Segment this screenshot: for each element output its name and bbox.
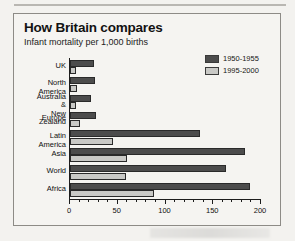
x-tick-major	[69, 199, 70, 204]
x-axis-line: 050100150200	[69, 199, 260, 200]
x-tick-minor	[145, 199, 146, 202]
x-tick-minor	[88, 199, 89, 202]
category-label: Asia	[51, 150, 66, 159]
x-tick-minor	[184, 199, 185, 202]
x-tick-minor	[136, 199, 137, 202]
bar-1995-2000[interactable]	[70, 85, 77, 92]
bar-1995-2000[interactable]	[70, 120, 80, 127]
x-tick-minor	[126, 199, 127, 202]
bar-group: UK	[70, 58, 261, 76]
x-tick-minor	[231, 199, 232, 202]
scan-artifact	[150, 228, 270, 238]
x-tick-minor	[107, 199, 108, 202]
bar-1950-1955[interactable]	[70, 183, 250, 190]
bar-group: Australia & New Zealand	[70, 93, 261, 111]
bar-1950-1955[interactable]	[70, 148, 245, 155]
x-tick-label: 50	[113, 206, 121, 215]
category-label: UK	[56, 62, 66, 71]
bar-group: North America	[70, 76, 261, 94]
bar-group: World	[70, 164, 261, 182]
page-title: How Britain compares	[24, 20, 163, 35]
bar-group: Europe	[70, 111, 261, 129]
bar-group: Africa	[70, 181, 261, 199]
category-label: Africa	[47, 185, 66, 194]
bar-1950-1955[interactable]	[70, 60, 94, 67]
bar-1950-1955[interactable]	[70, 130, 200, 137]
bar-1950-1955[interactable]	[70, 112, 96, 119]
x-tick-label: 200	[254, 206, 267, 215]
bar-group: Latin America	[70, 129, 261, 147]
x-tick-minor	[241, 199, 242, 202]
x-tick-major	[165, 199, 166, 204]
x-tick-minor	[155, 199, 156, 202]
bar-1995-2000[interactable]	[70, 173, 126, 180]
bar-1995-2000[interactable]	[70, 155, 127, 162]
bar-1995-2000[interactable]	[70, 138, 113, 145]
x-tick-minor	[174, 199, 175, 202]
bar-group: Asia	[70, 146, 261, 164]
chart-subtitle: Infant mortality per 1,000 births	[24, 37, 148, 47]
x-tick-minor	[203, 199, 204, 202]
top-divider-rule	[14, 4, 286, 6]
chart-plot-area: UKNorth AmericaAustralia & New ZealandEu…	[69, 58, 260, 199]
bar-1995-2000[interactable]	[70, 102, 76, 109]
x-tick-minor	[222, 199, 223, 202]
x-tick-label: 0	[67, 206, 71, 215]
bar-1950-1955[interactable]	[70, 77, 95, 84]
x-tick-minor	[193, 199, 194, 202]
category-label: Europe	[42, 114, 66, 123]
category-label: World	[47, 167, 66, 176]
bar-1995-2000[interactable]	[70, 67, 76, 74]
bar-1995-2000[interactable]	[70, 190, 154, 197]
x-tick-minor	[79, 199, 80, 202]
x-tick-minor	[250, 199, 251, 202]
x-tick-label: 150	[206, 206, 219, 215]
x-tick-major	[212, 199, 213, 204]
x-tick-major	[117, 199, 118, 204]
bar-1950-1955[interactable]	[70, 165, 226, 172]
x-tick-major	[260, 199, 261, 204]
category-label: Latin America	[38, 132, 66, 149]
bar-1950-1955[interactable]	[70, 95, 91, 102]
x-tick-label: 100	[158, 206, 171, 215]
x-tick-minor	[98, 199, 99, 202]
